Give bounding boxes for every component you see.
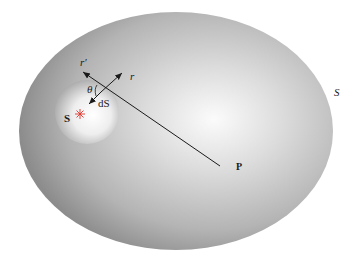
label-surface: S xyxy=(334,87,340,98)
source-star-icon xyxy=(75,109,85,119)
label-theta: θ xyxy=(87,84,92,95)
label-ds: dS xyxy=(98,98,110,109)
label-r-prime: r′ xyxy=(80,57,87,68)
gauss-law-diagram xyxy=(0,0,361,259)
label-source: S xyxy=(64,113,70,124)
label-point-p: P xyxy=(236,162,242,172)
label-r: r xyxy=(130,71,134,82)
